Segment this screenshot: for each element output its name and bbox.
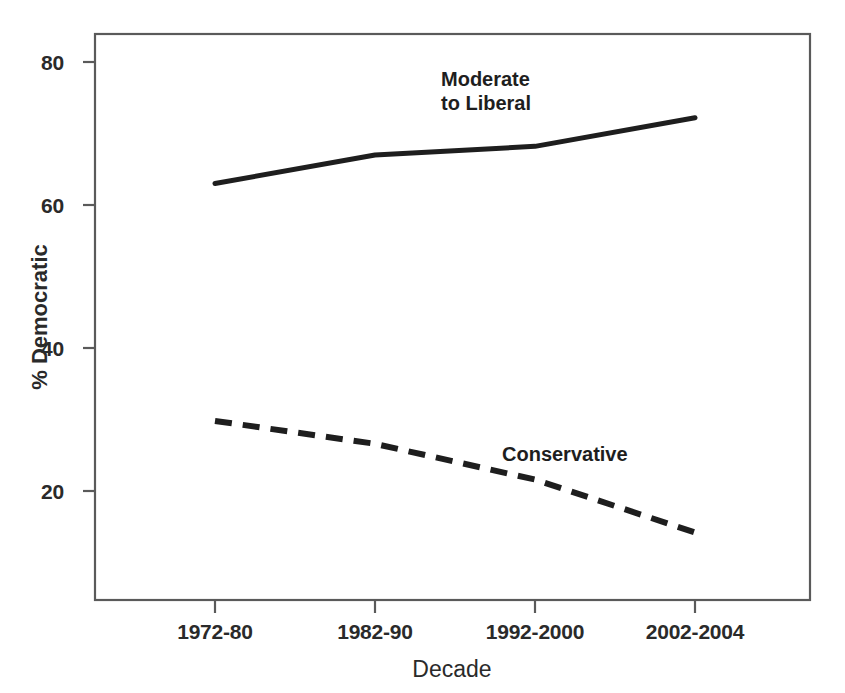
series-annotation-conservative: Conservative <box>502 443 628 467</box>
y-tick-label-60: 60 <box>41 194 64 218</box>
y-axis-ticks <box>83 62 95 491</box>
y-axis-title: % Democratic <box>27 244 52 390</box>
y-tick-label-20: 20 <box>41 480 64 504</box>
x-tick-label-1992-2000: 1992-2000 <box>486 620 585 644</box>
plot-frame <box>95 34 810 600</box>
x-axis-title: Decade <box>412 656 491 683</box>
chart-plot-area: % Democratic <box>0 0 845 693</box>
plot-border <box>95 34 810 600</box>
x-tick-label-1972-80: 1972-80 <box>177 620 253 644</box>
series-line-conservative <box>215 421 695 533</box>
x-tick-label-2002-2004: 2002-2004 <box>646 620 745 644</box>
y-tick-label-40: 40 <box>41 337 64 361</box>
x-axis-ticks <box>215 600 695 613</box>
series-annotation-moderate-to-liberal: Moderate to Liberal <box>441 68 531 115</box>
x-tick-label-1982-90: 1982-90 <box>337 620 413 644</box>
y-tick-label-80: 80 <box>41 51 64 75</box>
series-annotation-moderate-line1: Moderate <box>441 68 531 92</box>
chart-figure: % Democratic 80 60 40 20 1972-80 1982-90… <box>0 0 845 693</box>
series-line-moderate-to-liberal <box>215 118 695 184</box>
series-annotation-moderate-line2: to Liberal <box>441 92 531 116</box>
